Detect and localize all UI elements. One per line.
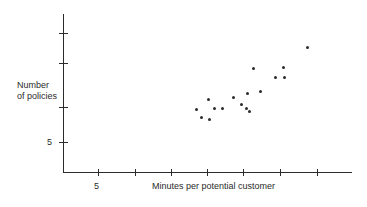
data-point-1 bbox=[200, 116, 203, 119]
data-point-15 bbox=[283, 76, 286, 79]
data-point-11 bbox=[252, 67, 255, 70]
plot-area bbox=[0, 0, 367, 207]
data-point-9 bbox=[246, 92, 249, 95]
data-point-12 bbox=[259, 90, 262, 93]
data-point-6 bbox=[232, 96, 235, 99]
data-point-5 bbox=[221, 107, 224, 110]
data-point-13 bbox=[274, 76, 277, 79]
data-point-2 bbox=[207, 98, 210, 101]
scatter-plot-figure: 5 5 Minutes per potential customer Numbe… bbox=[0, 0, 367, 207]
data-point-7 bbox=[240, 103, 243, 106]
data-point-10 bbox=[248, 110, 251, 113]
data-point-14 bbox=[282, 66, 285, 69]
data-point-3 bbox=[208, 118, 211, 121]
data-point-16 bbox=[306, 46, 309, 49]
data-point-0 bbox=[195, 108, 198, 111]
data-point-4 bbox=[213, 107, 216, 110]
